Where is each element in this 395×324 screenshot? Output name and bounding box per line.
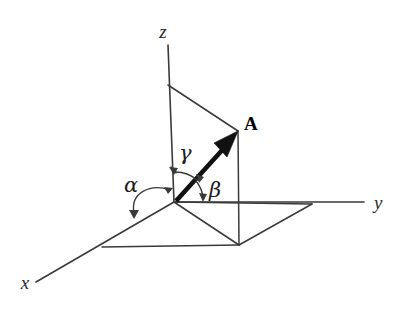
z-axis-label: z bbox=[158, 21, 167, 42]
base-right-edge bbox=[239, 204, 312, 245]
angle-alpha-label: α bbox=[124, 173, 138, 197]
x-axis-label: x bbox=[20, 272, 30, 293]
angle-beta-label: β bbox=[208, 178, 221, 202]
y-axis-label: y bbox=[372, 192, 383, 213]
alpha-arrowhead-2 bbox=[164, 187, 173, 194]
vector-diagram-canvas: z y x A γ α β bbox=[0, 0, 395, 324]
vertical-drop-line bbox=[238, 131, 239, 245]
vector-a-label: A bbox=[244, 113, 258, 134]
vertical-plane-top-edge bbox=[168, 85, 238, 131]
angle-gamma-label: γ bbox=[179, 141, 192, 165]
angle-beta-arc bbox=[196, 181, 207, 202]
z-axis-line bbox=[168, 45, 174, 202]
vector-diagram-figure: z y x A γ α β bbox=[0, 0, 395, 324]
base-diagonal bbox=[174, 202, 239, 245]
gamma-arrowhead bbox=[169, 167, 178, 175]
x-axis-line bbox=[36, 202, 174, 282]
beta-arrowhead bbox=[199, 193, 207, 202]
base-front-edge bbox=[102, 245, 239, 247]
coordinate-axes bbox=[36, 45, 364, 282]
alpha-arc-path bbox=[133, 188, 170, 213]
alpha-arrowhead bbox=[129, 210, 139, 219]
